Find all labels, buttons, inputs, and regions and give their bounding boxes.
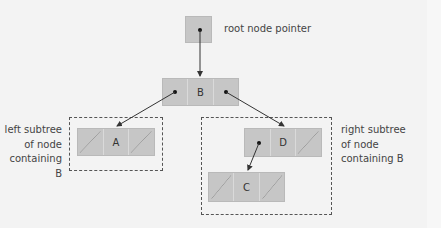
root-pointer-box xyxy=(185,16,212,43)
node-value: C xyxy=(234,173,259,201)
node-value: B xyxy=(188,79,213,105)
label-line: containing B xyxy=(0,152,62,181)
null-pointer-cell xyxy=(129,129,154,155)
node-value: D xyxy=(271,129,297,156)
node-b: B xyxy=(162,78,239,106)
background-strip xyxy=(427,0,441,228)
null-pointer-cell xyxy=(296,129,321,156)
null-pointer-cell xyxy=(209,173,234,201)
null-pointer-cell xyxy=(78,129,104,155)
label-line: left subtree xyxy=(0,123,62,138)
label-line: of node xyxy=(341,138,441,153)
label-line: of node xyxy=(0,138,62,153)
node-c: C xyxy=(208,172,285,202)
left-pointer-cell xyxy=(163,79,188,105)
left-pointer-cell xyxy=(245,129,271,156)
right-pointer-cell xyxy=(214,79,238,105)
right-subtree-label: right subtree of node containing B xyxy=(341,123,441,167)
node-value: A xyxy=(104,129,130,155)
label-line: containing B xyxy=(341,152,441,167)
tree-diagram: root node pointer B A left subtree of no… xyxy=(0,0,441,228)
node-a: A xyxy=(77,128,155,156)
null-pointer-cell xyxy=(260,173,284,201)
node-d: D xyxy=(244,128,322,157)
left-subtree-label: left subtree of node containing B xyxy=(0,123,62,181)
label-line: right subtree xyxy=(341,123,441,138)
root-pointer-label: root node pointer xyxy=(224,22,311,37)
